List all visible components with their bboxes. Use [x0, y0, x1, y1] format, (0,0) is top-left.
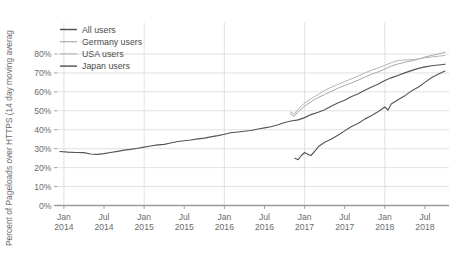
y-tick-label-50: 50%	[34, 106, 52, 116]
y-axis-title: Percent of Pageloads over HTTPS (14 day …	[4, 30, 14, 246]
x-tick-label-5: Jul2016	[255, 212, 274, 233]
x-tick-label-3: Jul2015	[175, 212, 194, 233]
x-tick-label-4: Jan2016	[215, 212, 234, 233]
legend-label-2: USA users	[82, 49, 124, 59]
x-tick-month-2: Jan	[137, 212, 151, 222]
y-axis-title-text: Percent of Pageloads over HTTPS (14 day …	[4, 30, 14, 246]
y-tick-label-60: 60%	[34, 87, 52, 97]
x-tick-month-6: Jan	[298, 212, 312, 222]
x-tick-month-8: Jan	[378, 212, 392, 222]
y-tick-label-10: 10%	[34, 182, 52, 192]
x-axis-tick-labels: Jan2014Jul2014Jan2015Jul2015Jan2016Jul20…	[54, 212, 434, 233]
y-tick-label-0: 0%	[39, 201, 52, 211]
x-tick-month-7: Jul	[339, 212, 350, 222]
y-tick-label-20: 20%	[34, 163, 52, 173]
x-tick-label-8: Jan2018	[375, 212, 394, 233]
gridlines	[58, 54, 450, 187]
y-tick-label-70: 70%	[34, 68, 52, 78]
chart-canvas: 0%10%20%30%40%50%60%70%80% Jan2014Jul201…	[0, 0, 469, 253]
x-tick-year-2: 2015	[135, 222, 154, 232]
x-tick-month-4: Jan	[217, 212, 231, 222]
y-tick-label-80: 80%	[34, 49, 52, 59]
x-tick-label-9: Jul2018	[415, 212, 434, 233]
x-tick-month-5: Jul	[259, 212, 270, 222]
https-pageloads-line-chart: 0%10%20%30%40%50%60%70%80% Jan2014Jul201…	[0, 0, 469, 253]
y-axis-tick-labels: 0%10%20%30%40%50%60%70%80%	[34, 49, 52, 211]
axes	[54, 54, 449, 209]
y-tick-label-40: 40%	[34, 125, 52, 135]
x-tick-year-6: 2017	[295, 222, 314, 232]
x-tick-month-0: Jan	[57, 212, 71, 222]
legend-label-3: Japan users	[82, 61, 131, 71]
x-tick-year-1: 2014	[94, 222, 113, 232]
legend-item-germany-users[interactable]: Germany users	[60, 37, 143, 47]
series-line-japan-users	[295, 71, 445, 160]
legend-label-1: Germany users	[82, 37, 143, 47]
legend-item-japan-users[interactable]: Japan users	[60, 61, 131, 71]
x-tick-label-2: Jan2015	[135, 212, 154, 233]
x-tick-year-8: 2018	[375, 222, 394, 232]
x-tick-year-3: 2015	[175, 222, 194, 232]
chart-legend: All usersGermany usersUSA usersJapan use…	[60, 25, 143, 72]
x-tick-year-4: 2016	[215, 222, 234, 232]
x-tick-month-9: Jul	[419, 212, 430, 222]
x-tick-year-9: 2018	[415, 222, 434, 232]
legend-item-usa-users[interactable]: USA users	[60, 49, 124, 59]
legend-item-all-users[interactable]: All users	[60, 25, 116, 35]
x-tick-year-5: 2016	[255, 222, 274, 232]
x-tick-label-7: Jul2017	[335, 212, 354, 233]
x-tick-year-7: 2017	[335, 222, 354, 232]
x-tick-year-0: 2014	[54, 222, 73, 232]
x-tick-label-0: Jan2014	[54, 212, 73, 233]
y-tick-label-30: 30%	[34, 144, 52, 154]
x-tick-month-3: Jul	[179, 212, 190, 222]
x-tick-label-1: Jul2014	[94, 212, 113, 233]
x-tick-label-6: Jan2017	[295, 212, 314, 233]
legend-label-0: All users	[82, 25, 116, 35]
x-tick-month-1: Jul	[99, 212, 110, 222]
